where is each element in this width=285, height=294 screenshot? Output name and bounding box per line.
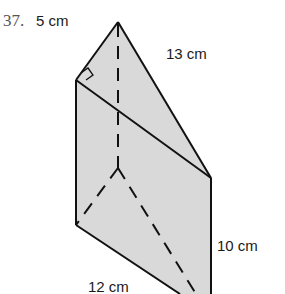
prism-fill bbox=[76, 22, 211, 294]
triangular-prism-figure bbox=[0, 0, 285, 294]
